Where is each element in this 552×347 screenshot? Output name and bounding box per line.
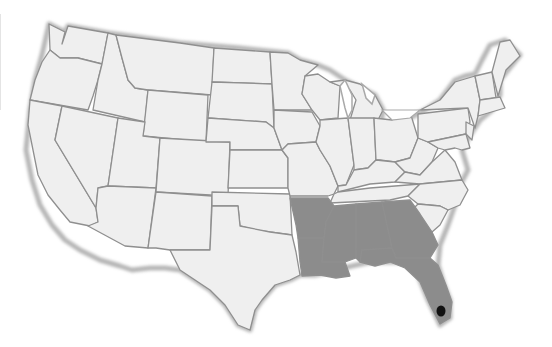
state-maine[interactable]	[492, 40, 520, 96]
states-layer	[28, 24, 520, 330]
us-map-svg	[0, 0, 552, 347]
frame-edge-line	[0, 14, 1, 110]
state-new-mexico[interactable]	[148, 192, 212, 250]
state-kansas[interactable]	[228, 150, 288, 188]
state-wyoming[interactable]	[143, 90, 208, 142]
highlight-point-south-florida[interactable]	[437, 306, 446, 317]
state-north-dakota[interactable]	[212, 48, 272, 84]
us-map	[0, 0, 552, 347]
state-arizona[interactable]	[88, 186, 156, 248]
state-colorado[interactable]	[156, 138, 230, 196]
